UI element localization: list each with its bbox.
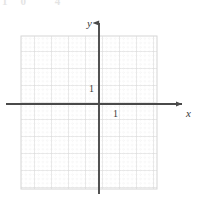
x-axis-unit-tick-label: 1 bbox=[113, 108, 118, 119]
grid-area bbox=[21, 36, 157, 189]
x-axis-label: x bbox=[185, 107, 191, 119]
y-axis-unit-tick-label: 1 bbox=[89, 83, 94, 94]
coordinate-plane-svg: y x 1 1 bbox=[0, 0, 198, 202]
grid-rect bbox=[21, 36, 157, 189]
figure-root: 10 4 bbox=[0, 0, 198, 202]
y-axis-label: y bbox=[86, 17, 92, 29]
